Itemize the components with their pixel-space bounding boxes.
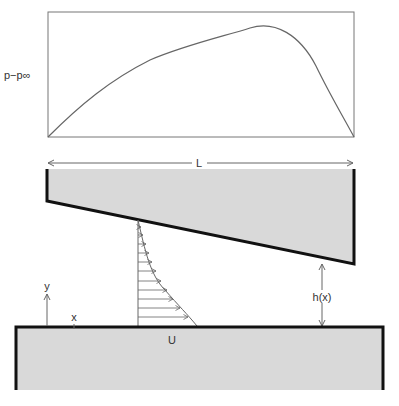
length-label: L [196,157,202,169]
slider-bearing-diagram: p−p∞ L h(x) y [0,0,399,406]
velocity-profile [138,220,197,327]
pressure-plot-frame [48,12,354,137]
profile-curve [138,220,197,326]
upper-slider [47,169,354,264]
gap-label: h(x) [313,291,332,303]
x-axis-label: x [71,311,77,323]
upper-slider-body [47,169,354,264]
lower-surface-body [16,327,383,390]
velocity-label: U [168,334,176,346]
y-axis-label: y [44,280,50,292]
pressure-curve [48,26,354,137]
gap-dimension: h(x) [313,264,332,326]
length-dimension: L [48,157,353,169]
coordinate-axes: y x [44,280,77,329]
pressure-axis-label: p−p∞ [4,69,31,81]
pressure-plot: p−p∞ [4,12,354,137]
lower-surface [16,327,383,390]
